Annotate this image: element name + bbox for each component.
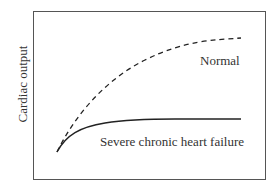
plot-curves — [0, 0, 274, 190]
normal-label: Normal — [200, 53, 240, 69]
heart-failure-label: Severe chronic heart failure — [100, 134, 244, 150]
